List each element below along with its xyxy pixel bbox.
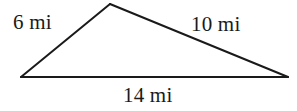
bottom-side-length-label: 14 mi bbox=[123, 85, 172, 106]
right-side-length-label: 10 mi bbox=[191, 14, 240, 35]
triangle-figure: 6 mi 10 mi 14 mi bbox=[0, 0, 297, 111]
left-side-length-label: 6 mi bbox=[13, 12, 52, 33]
